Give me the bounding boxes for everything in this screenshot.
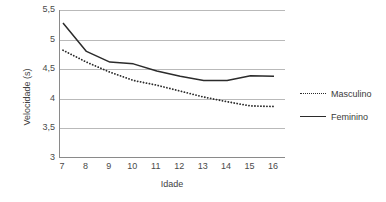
dotted-line-icon xyxy=(300,93,326,94)
x-axis-tick-label: 13 xyxy=(192,161,214,172)
series-line-feminino xyxy=(63,23,274,80)
x-axis-title: Idade xyxy=(59,179,285,189)
series-lines xyxy=(60,10,286,158)
x-axis-tick-labels: 78910111213141516 xyxy=(59,161,285,175)
x-axis-tick-label: 14 xyxy=(215,161,237,172)
series-line-masculino xyxy=(63,50,274,106)
legend-item-masculino: Masculino xyxy=(300,88,384,99)
y-axis-tick-label: 4,5 xyxy=(26,64,55,73)
solid-line-icon xyxy=(300,116,326,117)
x-axis-tick-label: 7 xyxy=(51,161,73,172)
line-chart: Velocidade (s) 5,554,543,53 789101112131… xyxy=(0,0,386,202)
x-axis-tick-label: 15 xyxy=(239,161,261,172)
x-axis-tick-label: 10 xyxy=(121,161,143,172)
x-axis-tick-label: 11 xyxy=(145,161,167,172)
x-axis-tick-label: 12 xyxy=(168,161,190,172)
x-axis-tick-label: 9 xyxy=(98,161,120,172)
y-axis-tick-label: 3,5 xyxy=(26,123,55,132)
x-axis-tick-label: 8 xyxy=(74,161,96,172)
gridline xyxy=(60,158,285,159)
y-axis-tick-label: 5,5 xyxy=(26,5,55,14)
y-axis-title-wrap: Velocidade (s) xyxy=(10,40,24,130)
plot-area xyxy=(59,10,285,158)
y-axis-tick-label: 5 xyxy=(26,35,55,44)
legend-item-feminino: Feminino xyxy=(300,111,384,122)
legend-label: Masculino xyxy=(331,89,372,99)
legend-label: Feminino xyxy=(331,112,368,122)
chart-legend: Masculino Feminino xyxy=(300,88,384,134)
x-axis-tick-label: 16 xyxy=(262,161,284,172)
y-axis-tick-label: 4 xyxy=(26,94,55,103)
